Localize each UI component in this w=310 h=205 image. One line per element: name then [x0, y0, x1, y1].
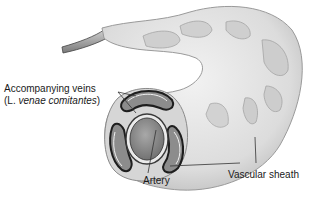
label-veins-prefix: (L.: [4, 95, 18, 106]
artery: [126, 114, 168, 164]
label-accompanying-veins: Accompanying veins (L. venae comitantes): [4, 83, 100, 107]
cross-section: [105, 88, 188, 181]
label-veins-latin: venae comitantes: [18, 95, 96, 106]
distal-vessel: [62, 30, 107, 53]
label-vascular-sheath: Vascular sheath: [228, 169, 299, 181]
label-veins-line1: Accompanying veins: [4, 83, 96, 94]
label-veins-suffix: ): [97, 95, 100, 106]
label-artery: Artery: [143, 175, 170, 187]
